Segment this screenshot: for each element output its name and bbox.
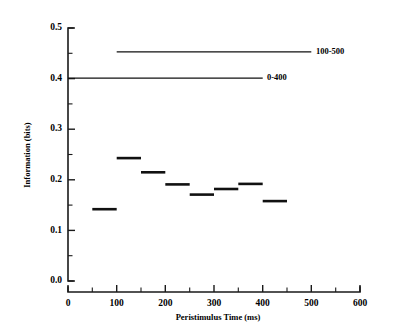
information-vs-time-chart: 0.0 0.1 0.2 0.3 0.4 0.5 0 100 200 [0,0,393,328]
y-tick-label: 0.5 [50,22,62,32]
x-tick-label: 600 [353,298,368,308]
y-tick-label: 0.4 [50,73,62,83]
x-tick-label: 100 [110,298,125,308]
reference-line-label: 100-500 [316,46,344,56]
y-tick-label: 0.1 [50,225,62,235]
x-tick-label: 200 [158,298,173,308]
chart-figure: 0.0 0.1 0.2 0.3 0.4 0.5 0 100 200 [0,0,393,328]
reference-line-label: 0-400 [267,72,287,82]
y-tick-label: 0.2 [50,174,62,184]
y-axis-title: Information (bits) [22,122,32,188]
x-tick-label: 0 [66,298,71,308]
x-tick-label: 400 [256,298,271,308]
y-tick-label: 0.0 [50,275,62,285]
x-tick-label: 300 [207,298,222,308]
x-tick-label: 500 [304,298,319,308]
x-axis-title: Peristimulus Time (ms) [176,312,261,322]
y-tick-label: 0.3 [50,123,62,133]
